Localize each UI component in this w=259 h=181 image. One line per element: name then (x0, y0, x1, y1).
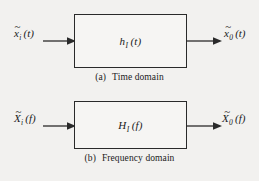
input-arrow-a (43, 36, 76, 46)
block-argument-a: (t) (130, 35, 141, 47)
panel-frequency-domain: ~Xi(f) HI(f) ~X0(f) (b)Frequency domain (0, 90, 259, 181)
input-argument-b: (f) (25, 112, 35, 124)
block-subscript-b: I (127, 125, 130, 134)
output-arrow-a (186, 36, 222, 46)
block-base-a: h (120, 35, 126, 47)
caption-panel-b: (b)Frequency domain (0, 153, 259, 163)
block-subscript-a: I (126, 41, 129, 50)
output-arrow-b (186, 121, 222, 131)
output-subscript-b: 0 (229, 118, 233, 127)
output-subscript-a: 0 (229, 33, 233, 42)
caption-tag-b: (b) (85, 153, 96, 163)
input-signal-label-b: ~Xi(f) (14, 113, 36, 124)
input-arrow-b (43, 121, 76, 131)
input-symbol-b: ~Xi (14, 113, 23, 124)
output-symbol-a: ~x0 (224, 28, 233, 39)
caption-text-b: Frequency domain (102, 153, 175, 163)
block-argument-b: (f) (132, 119, 143, 131)
system-block-frequency-domain: HI(f) (74, 101, 187, 149)
caption-tag-a: (a) (95, 72, 106, 82)
output-argument-b: (f) (235, 112, 245, 124)
caption-text-a: Time domain (112, 72, 164, 82)
output-signal-label-b: ~X0(f) (222, 113, 245, 124)
tilde-accent-icon: ~ (15, 21, 21, 32)
input-subscript-b: i (21, 118, 23, 127)
system-block-time-domain: hI(t) (74, 14, 187, 68)
tilde-accent-icon: ~ (225, 21, 231, 32)
input-signal-label-a: ~xi(t) (14, 28, 34, 39)
tilde-accent-icon: ~ (224, 106, 230, 117)
tilde-accent-icon: ~ (15, 106, 21, 117)
input-subscript-a: i (19, 33, 21, 42)
block-base-b: H (118, 119, 126, 131)
caption-panel-a: (a)Time domain (0, 72, 259, 82)
output-symbol-b: ~X0 (222, 113, 232, 124)
input-symbol-a: ~xi (14, 28, 21, 39)
panel-time-domain: ~xi(t) hI(t) ~x0(t) (a)Time domain (0, 0, 259, 90)
output-signal-label-a: ~x0(t) (224, 28, 246, 39)
block-label-b: HI(f) (118, 119, 142, 131)
block-label-a: hI(t) (120, 35, 142, 47)
output-argument-a: (t) (235, 27, 245, 39)
figure-block-diagram: ~xi(t) hI(t) ~x0(t) (a)Time domain ~Xi(f… (0, 0, 259, 181)
input-argument-a: (t) (23, 27, 33, 39)
